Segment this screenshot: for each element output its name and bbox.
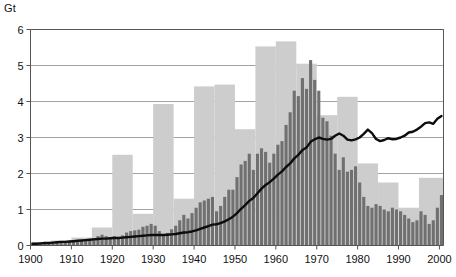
y-tick-label: 3	[17, 132, 23, 144]
annual-bar	[383, 210, 386, 246]
annual-bar	[366, 206, 369, 246]
y-tick-label: 2	[17, 168, 23, 180]
annual-bar	[370, 208, 373, 246]
annual-bar	[321, 118, 324, 246]
emissions-chart: Gt 0123456190019101920193019401950196019…	[0, 0, 456, 277]
annual-bar	[285, 125, 288, 246]
annual-bar	[280, 141, 283, 245]
x-tick-label: 1910	[59, 253, 83, 265]
annual-bar	[252, 170, 255, 246]
y-tick-label: 4	[17, 96, 23, 108]
annual-bar	[190, 213, 193, 245]
annual-bar	[424, 215, 427, 246]
annual-bar	[174, 226, 177, 246]
annual-bar	[432, 220, 435, 245]
annual-bar	[395, 210, 398, 246]
x-tick-label: 1980	[345, 253, 369, 265]
annual-bar	[411, 222, 414, 245]
annual-bar	[407, 219, 410, 246]
annual-bar	[297, 96, 300, 245]
annual-bar	[101, 235, 104, 246]
annual-bar	[403, 215, 406, 246]
annual-bar	[374, 204, 377, 245]
annual-bar	[195, 208, 198, 246]
annual-bar	[334, 154, 337, 246]
annual-bar	[182, 215, 185, 246]
annual-bar	[199, 202, 202, 245]
annual-bar	[137, 230, 140, 246]
annual-bar	[309, 60, 312, 245]
annual-bar	[260, 148, 263, 245]
annual-bar	[415, 220, 418, 245]
annual-bar	[268, 163, 271, 246]
annual-bar	[162, 235, 165, 246]
annual-bar	[219, 206, 222, 246]
annual-bar	[215, 211, 218, 245]
annual-bar	[379, 206, 382, 246]
x-tick-label: 1920	[100, 253, 124, 265]
annual-bar	[129, 231, 132, 245]
annual-bar	[211, 197, 214, 246]
annual-bar	[289, 112, 292, 245]
x-tick-label: 1990	[386, 253, 410, 265]
annual-bar	[170, 229, 173, 245]
annual-bar	[428, 224, 431, 246]
annual-bar	[329, 136, 332, 246]
annual-bar	[305, 89, 308, 246]
annual-bar	[96, 236, 99, 245]
chart-plot-area: 0123456190019101920193019401950196019701…	[0, 0, 456, 277]
annual-bar	[313, 80, 316, 246]
annual-bar	[419, 211, 422, 245]
annual-bar	[264, 152, 267, 246]
annual-bar	[256, 154, 259, 246]
annual-bar	[158, 231, 161, 245]
y-tick-label: 1	[17, 204, 23, 216]
annual-bar	[350, 170, 353, 246]
annual-bar	[133, 230, 136, 245]
annual-bar	[240, 165, 243, 246]
annual-bar	[301, 78, 304, 245]
x-tick-label: 1950	[223, 253, 247, 265]
annual-bar	[358, 183, 361, 246]
annual-bar	[125, 233, 128, 246]
annual-bar	[436, 208, 439, 246]
annual-bar	[293, 91, 296, 246]
annual-bar	[276, 145, 279, 246]
x-tick-label: 1940	[182, 253, 206, 265]
x-tick-label: 1960	[264, 253, 288, 265]
annual-bar	[338, 170, 341, 246]
y-tick-label: 5	[17, 60, 23, 72]
annual-bar	[399, 211, 402, 245]
annual-bar	[317, 91, 320, 246]
annual-bar	[354, 166, 357, 245]
x-tick-label: 1930	[141, 253, 165, 265]
x-tick-label: 1970	[304, 253, 328, 265]
band-bar	[153, 104, 173, 245]
annual-bar	[440, 195, 443, 245]
annual-bar	[342, 157, 345, 245]
x-tick-label: 1900	[18, 253, 42, 265]
annual-bar	[272, 154, 275, 246]
x-tick-label: 2000	[427, 253, 451, 265]
annual-bar	[207, 199, 210, 246]
annual-bar	[362, 197, 365, 246]
annual-bar	[203, 201, 206, 246]
annual-bar	[391, 208, 394, 246]
band-bar	[419, 178, 444, 246]
annual-bar	[346, 172, 349, 246]
y-tick-label: 6	[17, 24, 23, 36]
annual-bar	[387, 211, 390, 245]
y-tick-label: 0	[17, 240, 23, 252]
